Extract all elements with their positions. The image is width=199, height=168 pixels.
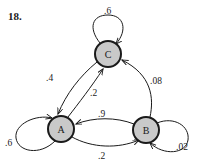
edge-A-to-A: .6 (5, 117, 55, 150)
state-transition-diagram: .6 .4 .2 .08 .9 .2 .6 (0, 0, 199, 168)
edge-label-C-A: .4 (46, 73, 53, 83)
edge-label-A-C: .2 (90, 88, 97, 98)
edge-label-B-C: .08 (150, 76, 162, 86)
edge-B-to-C: .08 (122, 60, 162, 117)
edge-label-B-B: .02 (176, 142, 188, 152)
problem-figure-page: 18. .6 .4 .2 .08 .9 (0, 0, 199, 168)
edge-label-C-C: .6 (104, 6, 111, 16)
edge-label-A-A: .6 (5, 138, 12, 148)
edge-C-to-C: .6 (93, 6, 123, 44)
node-label-B: B (143, 125, 150, 136)
edge-label-A-B: .2 (98, 151, 105, 161)
node-label-A: A (57, 124, 65, 135)
edge-B-to-A: .9 (76, 109, 134, 124)
edge-label-B-A: .9 (98, 109, 105, 119)
edge-A-to-B: .2 (72, 137, 139, 161)
node-label-C: C (105, 49, 112, 60)
node-A[interactable]: A (48, 116, 74, 142)
node-B[interactable]: B (133, 117, 159, 143)
node-C[interactable]: C (95, 41, 121, 67)
